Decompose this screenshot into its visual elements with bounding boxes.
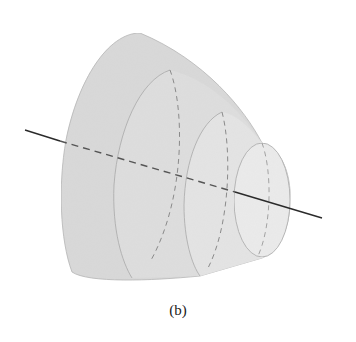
axis-line-left [25,130,60,141]
solid-of-revolution-diagram [0,0,356,342]
figure-caption: (b) [0,301,356,319]
